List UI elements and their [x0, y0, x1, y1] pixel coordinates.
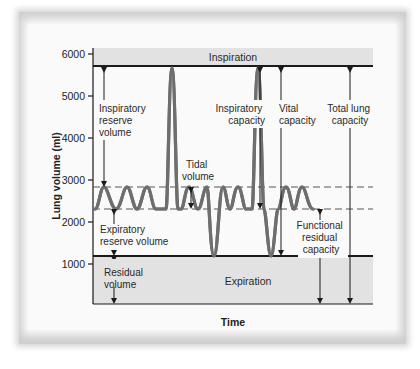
y-tick-label: 4000	[62, 132, 86, 144]
tidal-volume-label: Tidal volume	[182, 159, 215, 182]
y-axis-title: Lung volume (ml)	[50, 132, 62, 220]
y-tick-label: 6000	[62, 48, 86, 60]
expiration-label: Expiration	[225, 275, 272, 287]
y-tick-label: 2000	[62, 216, 86, 228]
inspiration-label: Inspiration	[209, 51, 258, 63]
y-tick-label: 3000	[62, 174, 86, 186]
y-tick-label: 5000	[62, 90, 86, 102]
y-ticks	[88, 54, 93, 264]
tlc-label: Total lung capacity	[327, 103, 373, 126]
lung-volume-chart: 6000 5000 4000 3000 2000 1000 Lung volum…	[0, 0, 420, 369]
frc-label: Functional residual capacity	[297, 220, 346, 255]
y-tick-label: 1000	[62, 258, 86, 270]
x-axis-title: Time	[221, 316, 245, 328]
y-tick-labels: 6000 5000 4000 3000 2000 1000	[62, 48, 86, 270]
